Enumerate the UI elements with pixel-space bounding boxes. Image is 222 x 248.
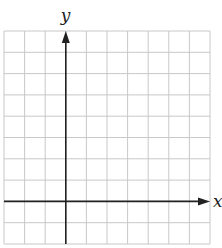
x-axis-label: x <box>213 191 222 211</box>
y-axis-label: y <box>60 5 71 25</box>
grid-lines <box>4 31 210 244</box>
x-axis-arrow-icon <box>198 197 210 205</box>
coordinate-plane: x y <box>0 0 222 248</box>
y-axis-arrow-icon <box>62 31 70 43</box>
